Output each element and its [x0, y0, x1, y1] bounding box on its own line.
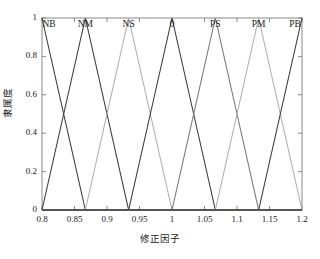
y-tick-label: 0.2: [11, 167, 37, 176]
chart-figure: 00.20.40.60.81 0.80.850.90.9511.051.11.1…: [0, 0, 320, 259]
set-label-nb: NB: [34, 20, 64, 30]
y-tick-label: 0.8: [11, 51, 37, 60]
x-tick-label: 0.95: [123, 215, 157, 224]
set-label-0: 0: [157, 20, 187, 30]
set-label-ps: PS: [200, 20, 230, 30]
y-tick-label: 0.4: [11, 128, 37, 137]
x-tick-label: 1.1: [220, 215, 254, 224]
x-tick-label: 1.2: [285, 215, 319, 224]
x-tick-label: 0.85: [58, 215, 92, 224]
x-tick-label: 1: [155, 215, 189, 224]
set-label-nm: NM: [70, 20, 100, 30]
set-label-pb: PB: [280, 20, 310, 30]
x-axis-title: 修正因子: [0, 235, 320, 245]
plot-frame: [42, 18, 302, 210]
axes-frame: [42, 18, 302, 210]
set-label-pm: PM: [244, 20, 274, 30]
x-tick-label: 1.05: [188, 215, 222, 224]
y-tick-label: 0.6: [11, 90, 37, 99]
x-tick-label: 1.15: [253, 215, 287, 224]
y-axis-title: 隶属度: [4, 75, 14, 131]
y-tick-label: 0: [11, 205, 37, 214]
x-tick-label: 0.9: [90, 215, 124, 224]
set-label-ns: NS: [114, 20, 144, 30]
x-tick-label: 0.8: [25, 215, 59, 224]
